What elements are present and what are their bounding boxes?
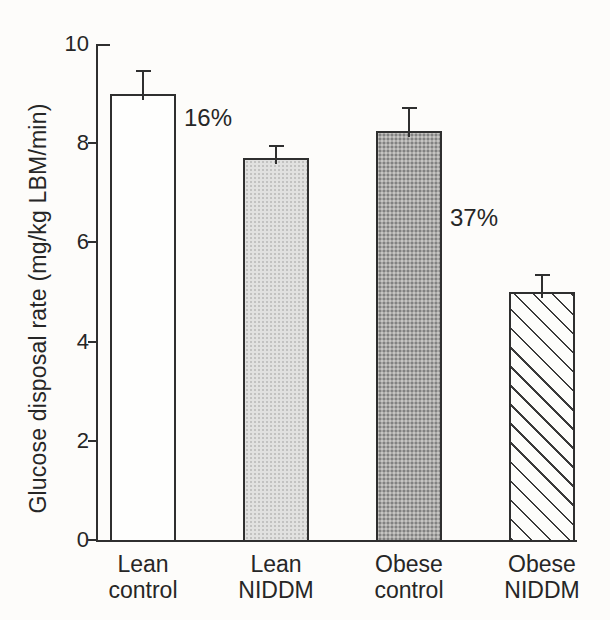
x-axis-line [96, 540, 577, 542]
bar-lean-control [110, 94, 176, 540]
plot-area: 0246810Lean controlLean NIDDMObese contr… [0, 0, 610, 620]
error-bar-stem-lean-niddm [275, 146, 277, 164]
y-tick-8 [88, 142, 96, 144]
y-tick-6 [88, 241, 96, 243]
error-bar-stem-obese-control [408, 108, 410, 136]
error-bar-stem-lean-control [142, 71, 144, 99]
y-tick-label-0: 0 [39, 529, 89, 551]
y-axis-top-cap [97, 44, 110, 46]
x-category-label-obese-niddm: Obese NIDDM [482, 551, 602, 603]
annotation-16-percent: 16% [184, 106, 232, 130]
error-bar-cap-obese-niddm [535, 274, 550, 276]
bar-chart-figure: Glucose disposal rate (mg/kg LBM/min) 02… [0, 0, 610, 620]
y-tick-4 [88, 341, 96, 343]
annotation-37-percent: 37% [450, 206, 498, 230]
error-bar-cap-lean-control [136, 70, 151, 72]
y-tick-label-6: 6 [39, 231, 89, 253]
y-tick-2 [88, 440, 96, 442]
y-axis-line [96, 44, 98, 542]
bar-obese-control [376, 131, 442, 540]
y-tick-label-8: 8 [39, 132, 89, 154]
x-category-label-obese-control: Obese control [349, 551, 469, 603]
y-tick-label-2: 2 [39, 430, 89, 452]
x-category-label-lean-control: Lean control [83, 551, 203, 603]
y-tick-0 [88, 539, 96, 541]
bar-obese-niddm [509, 292, 575, 540]
error-bar-cap-lean-niddm [269, 145, 284, 147]
y-tick-label-10: 10 [39, 33, 89, 55]
x-category-label-lean-niddm: Lean NIDDM [216, 551, 336, 603]
bar-lean-niddm [243, 158, 309, 540]
y-tick-label-4: 4 [39, 331, 89, 353]
error-bar-cap-obese-control [402, 107, 417, 109]
error-bar-stem-obese-niddm [541, 275, 543, 298]
